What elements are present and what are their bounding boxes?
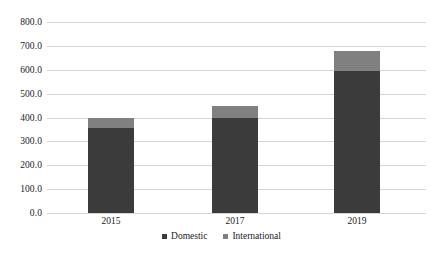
bar-segment-international <box>334 51 380 71</box>
legend-item-domestic[interactable]: Domestic <box>162 231 207 241</box>
chart-legend: Domestic International <box>0 231 443 241</box>
legend-label-international: International <box>232 231 281 241</box>
legend-swatch-domestic <box>162 234 167 239</box>
bar-segment-international <box>88 118 134 129</box>
bar-group-2015[interactable] <box>88 118 134 213</box>
y-tick-label: 800.0 <box>20 17 42 27</box>
x-tick-label: 2015 <box>71 216 151 226</box>
y-axis-labels: 800.0 700.0 600.0 500.0 400.0 300.0 200.… <box>0 0 47 259</box>
bar-segment-domestic <box>334 71 380 213</box>
y-tick-label: 700.0 <box>20 41 42 51</box>
y-tick-label: 400.0 <box>20 113 42 123</box>
x-tick-label: 2017 <box>195 216 275 226</box>
y-tick-label: 100.0 <box>20 184 42 194</box>
bar-segment-domestic <box>212 118 258 214</box>
bars-layer <box>47 22 426 213</box>
bar-group-2017[interactable] <box>212 106 258 213</box>
y-tick-label: 200.0 <box>20 160 42 170</box>
legend-item-international[interactable]: International <box>223 231 281 241</box>
y-tick-label: 600.0 <box>20 65 42 75</box>
y-tick-label: 500.0 <box>20 89 42 99</box>
x-tick-label: 2019 <box>317 216 397 226</box>
x-axis-labels: 2015 2017 2019 <box>47 214 426 232</box>
legend-swatch-international <box>223 234 228 239</box>
stacked-bar-chart: 800.0 700.0 600.0 500.0 400.0 300.0 200.… <box>0 0 443 259</box>
legend-label-domestic: Domestic <box>171 231 207 241</box>
bar-group-2019[interactable] <box>334 51 380 213</box>
y-tick-label: 300.0 <box>20 136 42 146</box>
bar-segment-international <box>212 106 258 118</box>
y-tick-label: 0.0 <box>30 208 42 218</box>
bar-segment-domestic <box>88 128 134 213</box>
